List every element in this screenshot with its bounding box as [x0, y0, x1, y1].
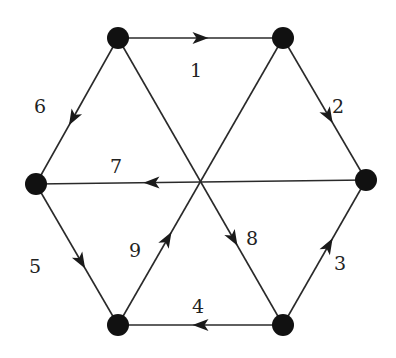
edge-2	[283, 38, 366, 180]
node-tl	[107, 27, 129, 49]
node-br	[272, 314, 294, 336]
edge-label-1: 1	[190, 59, 202, 81]
edge-6	[36, 38, 118, 184]
edge-label-2: 2	[332, 95, 344, 117]
edge-label-8: 8	[246, 227, 258, 249]
edges-layer	[36, 38, 366, 325]
arrowhead-icon	[64, 108, 82, 128]
edge-label-6: 6	[34, 95, 46, 117]
edge-label-3: 3	[334, 252, 346, 274]
edge-label-4: 4	[192, 295, 204, 317]
arrowhead-icon	[224, 229, 242, 249]
node-l	[25, 173, 47, 195]
directed-graph: 123456789	[0, 0, 396, 358]
node-tr	[272, 27, 294, 49]
arrowhead-icon	[158, 229, 176, 249]
edge-label-5: 5	[29, 255, 41, 277]
edge-3	[283, 180, 366, 325]
arrowhead-icon	[72, 252, 90, 272]
labels-layer: 123456789	[29, 59, 346, 317]
edge-label-7: 7	[110, 155, 122, 177]
edge-5	[36, 184, 118, 325]
node-r	[355, 169, 377, 191]
node-bl	[107, 314, 129, 336]
edge-label-9: 9	[129, 239, 141, 261]
